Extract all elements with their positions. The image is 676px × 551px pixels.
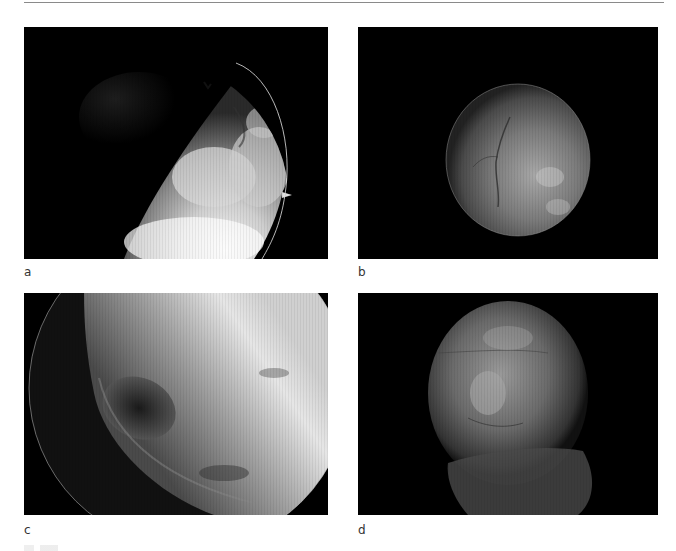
endoscopic-image-b (358, 27, 658, 259)
panel-label-d: d (358, 524, 366, 536)
panel-label-b: b (358, 266, 366, 278)
panel-label-a: a (24, 266, 31, 278)
endoscopic-image-c (24, 293, 328, 515)
endoscopic-image-a (24, 27, 328, 259)
figure-panel-a (24, 27, 328, 259)
panel-label-c: c (24, 524, 31, 536)
figure-panel-d (358, 293, 658, 515)
cropped-caption-fragment (24, 545, 84, 551)
top-rule (24, 2, 664, 3)
figure-panel-c (24, 293, 328, 515)
figure-panel-b (358, 27, 658, 259)
endoscopic-image-d (358, 293, 658, 515)
